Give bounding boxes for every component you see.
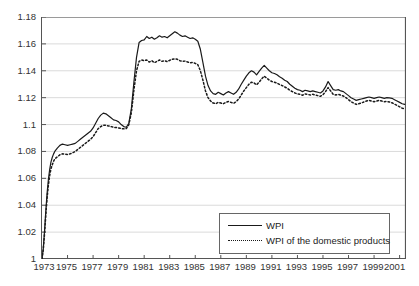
x-tick-label: 1993 bbox=[286, 262, 307, 272]
y-axis: 11.021.041.061.081.11.121.141.161.18 bbox=[0, 17, 36, 259]
x-tick-label: 1991 bbox=[260, 262, 281, 272]
x-tick-label: 1987 bbox=[209, 262, 230, 272]
legend-item-wpi-domestic: WPI of the domestic products bbox=[226, 233, 383, 248]
legend-label-wpi: WPI bbox=[264, 220, 284, 231]
x-tick-label: 2001 bbox=[384, 262, 405, 272]
y-tick-label: 1.04 bbox=[2, 200, 36, 210]
x-tick-label: 1981 bbox=[133, 262, 154, 272]
x-tick-label: 1975 bbox=[56, 262, 77, 272]
x-tick-label: 1973 bbox=[33, 262, 54, 272]
x-tick-label: 1985 bbox=[184, 262, 205, 272]
y-tick-label: 1.14 bbox=[2, 66, 36, 76]
legend-label-wpi-domestic: WPI of the domestic products bbox=[264, 235, 390, 246]
legend-item-wpi: WPI bbox=[226, 218, 383, 233]
x-axis: 1973197519771979198119831985198719891991… bbox=[41, 262, 405, 276]
y-tick-label: 1.02 bbox=[2, 227, 36, 237]
x-tick-label: 1983 bbox=[158, 262, 179, 272]
y-tick-label: 1.16 bbox=[2, 39, 36, 49]
x-tick-label: 1977 bbox=[82, 262, 103, 272]
chart-legend: WPI WPI of the domestic products bbox=[219, 213, 390, 254]
legend-key-dotted-icon bbox=[226, 236, 264, 246]
y-tick-label: 1 bbox=[2, 254, 36, 264]
y-tick-label: 1.18 bbox=[2, 12, 36, 22]
legend-key-solid-icon bbox=[226, 221, 264, 231]
y-tick-label: 1.1 bbox=[2, 120, 36, 130]
y-tick-label: 1.12 bbox=[2, 93, 36, 103]
x-tick-label: 1997 bbox=[337, 262, 358, 272]
chart-container: 11.021.041.061.081.11.121.141.161.18 197… bbox=[0, 0, 419, 286]
y-tick-label: 1.08 bbox=[2, 147, 36, 157]
y-tick-label: 1.06 bbox=[2, 174, 36, 184]
x-tick-label: 1989 bbox=[235, 262, 256, 272]
x-tick-label: 1995 bbox=[311, 262, 332, 272]
x-tick-label: 1979 bbox=[107, 262, 128, 272]
x-tick-label: 1999 bbox=[362, 262, 383, 272]
